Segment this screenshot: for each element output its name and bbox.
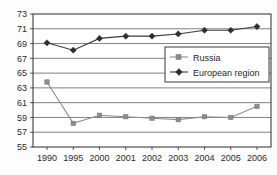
y-tick-label: 71 bbox=[17, 24, 27, 34]
data-point-russia bbox=[124, 115, 128, 119]
y-tick-label: 63 bbox=[17, 83, 27, 93]
y-tick-label: 61 bbox=[17, 98, 27, 108]
chart-canvas: 73716967656361595755 1990199520002001200… bbox=[0, 0, 277, 175]
data-point-russia bbox=[255, 104, 259, 108]
x-tick-label: 2000 bbox=[89, 153, 109, 163]
data-point-russia bbox=[202, 115, 206, 119]
data-point-russia bbox=[229, 115, 233, 119]
line-chart: 73716967656361595755 1990199520002001200… bbox=[0, 0, 277, 175]
x-tick-label: 1995 bbox=[63, 153, 83, 163]
x-tick-label: 2006 bbox=[247, 153, 267, 163]
x-tick-label: 2001 bbox=[116, 153, 136, 163]
chart-legend: Russia European region bbox=[165, 47, 269, 82]
data-point-russia bbox=[71, 121, 75, 125]
y-tick-label: 59 bbox=[17, 113, 27, 123]
y-tick-label: 55 bbox=[17, 142, 27, 152]
x-tick-label: 1990 bbox=[37, 153, 57, 163]
legend-label-european-region: European region bbox=[193, 68, 260, 78]
x-axis-labels: 199019952000200120022003200420052006 bbox=[37, 153, 267, 163]
y-tick-label: 67 bbox=[17, 54, 27, 64]
y-tick-label: 65 bbox=[17, 68, 27, 78]
x-tick-label: 2003 bbox=[168, 153, 188, 163]
x-tick-label: 2004 bbox=[194, 153, 214, 163]
x-tick-label: 2002 bbox=[142, 153, 162, 163]
x-tick-label: 2005 bbox=[221, 153, 241, 163]
data-point-russia bbox=[150, 116, 154, 120]
y-axis-labels: 73716967656361595755 bbox=[17, 9, 27, 152]
data-point-russia bbox=[176, 117, 180, 121]
square-marker-icon bbox=[176, 55, 181, 60]
y-tick-label: 57 bbox=[17, 127, 27, 137]
data-point-russia bbox=[45, 80, 49, 84]
data-point-russia bbox=[97, 113, 101, 117]
y-tick-label: 73 bbox=[17, 9, 27, 19]
y-tick-label: 69 bbox=[17, 39, 27, 49]
legend-label-russia: Russia bbox=[193, 53, 221, 63]
